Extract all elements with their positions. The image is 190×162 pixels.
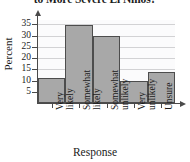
x-axis-arrow-icon [180, 101, 186, 107]
x-axis-tick [52, 103, 53, 108]
y-axis-tick-labels: 5101520253035 [0, 0, 31, 162]
x-axis-category-label: Somewhatlikely [83, 56, 102, 110]
x-axis-tick [79, 103, 80, 108]
x-axis-category-label: Somewhatunlikely [111, 56, 130, 110]
x-axis-category-label: Veryunlikely [138, 56, 157, 110]
y-axis-tick-label: 20 [5, 53, 31, 62]
y-axis-arrow-icon [35, 10, 41, 16]
x-axis-category-label: Verylikely [56, 56, 75, 110]
y-axis-tick-label: 25 [5, 42, 31, 51]
x-axis-tick [134, 103, 135, 108]
x-axis-tick [161, 103, 162, 108]
y-axis-tick-label: 15 [5, 64, 31, 73]
bar-chart: to More Severe El Niños? Percent 5101520… [0, 0, 190, 162]
x-axis-category-label: Unsure [165, 56, 175, 110]
y-axis-tick-label: 5 [5, 87, 31, 96]
y-axis-tick-label: 30 [5, 31, 31, 40]
x-axis-tick [107, 103, 108, 108]
x-axis-title: Response [0, 146, 190, 158]
y-axis-tick-label: 35 [5, 19, 31, 28]
y-axis-tick-label: 10 [5, 76, 31, 85]
